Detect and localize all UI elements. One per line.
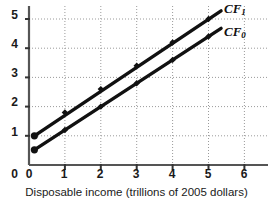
axis-tick-marks	[25, 19, 244, 170]
series-label-cf1-text: CF	[224, 1, 241, 16]
x-axis-tick-label-2: 2	[93, 168, 107, 180]
y-axis-tick-label-0: 0	[4, 168, 18, 180]
x-axis-title: Disposable income (trillions of 2005 dol…	[0, 186, 273, 198]
x-axis-tick-label-6: 6	[237, 168, 251, 180]
y-axis-tick-label-3: 3	[4, 67, 18, 79]
y-axis-tick-label-1: 1	[4, 126, 18, 138]
x-axis-tick-label-1: 1	[57, 168, 71, 180]
y-axis-tick-label-4: 4	[4, 38, 18, 50]
data-series-lines	[34, 11, 221, 150]
series-label-cf0-subscript: 0	[241, 30, 246, 40]
series-label-cf1: CF1	[224, 2, 246, 15]
x-axis-tick-label-4: 4	[165, 168, 179, 180]
x-axis-tick-label-5: 5	[201, 168, 215, 180]
y-axis-tick-label-5: 5	[4, 9, 18, 21]
y-axis-tick-label-2: 2	[4, 96, 18, 108]
series-label-cf0-text: CF	[224, 24, 241, 39]
x-axis-tick-label-0: 0	[22, 168, 36, 180]
chart-container: 5 4 3 2 1 0 0 1 2 3 4 5 6 Disposable inc…	[0, 0, 273, 206]
series-label-cf1-subscript: 1	[241, 7, 246, 17]
x-axis-tick-label-3: 3	[129, 168, 143, 180]
series-label-cf0: CF0	[224, 25, 246, 38]
